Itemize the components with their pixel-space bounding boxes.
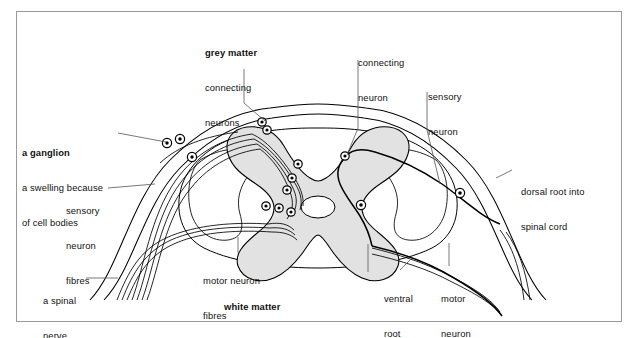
label-connecting-neuron-line-1: neuron bbox=[358, 92, 404, 104]
label-sensory-fibres-line-1: neuron bbox=[66, 240, 100, 252]
label-sensory-neuron: sensory neuron bbox=[428, 68, 462, 161]
label-a-spinal-nerve-line-0: a spinal bbox=[43, 295, 76, 307]
label-grey-matter-line-0: connecting bbox=[205, 82, 257, 94]
label-sensory-neuron-line-0: sensory bbox=[428, 91, 462, 103]
label-motor-neuron: motor neuron bbox=[441, 270, 471, 338]
figure-root: .out { fill:none; stroke:#000; stroke-wi… bbox=[0, 0, 635, 338]
label-ventral-root-line-0: ventral bbox=[384, 293, 430, 305]
label-a-spinal-nerve: a spinal nerve bbox=[43, 272, 76, 338]
label-dorsal-root: dorsal root into spinal cord bbox=[521, 163, 585, 256]
label-a-ganglion-heading: a ganglion bbox=[22, 147, 103, 159]
label-grey-matter-heading: grey matter bbox=[205, 47, 257, 59]
label-connecting-neuron-line-0: connecting bbox=[358, 57, 404, 69]
label-white-matter-heading: white matter bbox=[224, 301, 304, 313]
label-grey-matter: grey matter connecting neurons bbox=[205, 24, 257, 152]
label-ventral-root: ventral root out of spinal cord bbox=[384, 270, 430, 338]
label-sensory-neuron-line-1: neuron bbox=[428, 126, 462, 138]
label-connecting-neuron: connecting neuron bbox=[358, 34, 404, 127]
label-motor-neuron-line-1: neuron bbox=[441, 328, 471, 338]
label-dorsal-root-line-0: dorsal root into bbox=[521, 186, 585, 198]
label-grey-matter-line-1: neurons bbox=[205, 117, 257, 129]
label-dorsal-root-line-1: spinal cord bbox=[521, 221, 585, 233]
label-sensory-fibres-line-0: sensory bbox=[66, 205, 100, 217]
label-a-spinal-nerve-line-1: nerve bbox=[43, 330, 76, 338]
label-motor-neuron-line-0: motor bbox=[441, 293, 471, 305]
label-ventral-root-line-1: root bbox=[384, 328, 430, 338]
label-white-matter: white matter fibres of sensory and motor… bbox=[224, 278, 304, 338]
